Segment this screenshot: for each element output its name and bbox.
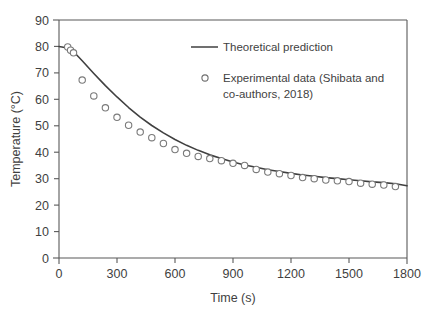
data-point-marker xyxy=(288,172,294,178)
data-point-marker xyxy=(230,160,236,166)
data-point-marker xyxy=(125,122,131,128)
chart-legend: Theoretical prediction Experimental data… xyxy=(191,41,384,100)
data-point-marker xyxy=(346,178,352,184)
x-tick-label: 900 xyxy=(223,267,244,281)
y-tick-label: 50 xyxy=(35,119,49,133)
y-tick-label: 20 xyxy=(35,199,49,213)
data-point-marker xyxy=(218,157,224,163)
data-point-marker xyxy=(160,140,166,146)
x-tick-label: 1500 xyxy=(335,267,363,281)
y-axis-tick-labels: 0 10 20 30 40 50 60 70 80 90 xyxy=(35,14,49,266)
cooling-curve-chart: 0 10 20 30 40 50 60 70 80 90 0 300 600 9… xyxy=(0,0,429,312)
data-point-marker xyxy=(137,129,143,135)
data-point-marker xyxy=(183,150,189,156)
y-tick-label: 30 xyxy=(35,172,49,186)
data-point-marker xyxy=(311,175,317,181)
data-point-marker xyxy=(334,178,340,184)
y-axis-title: Temperature (°C) xyxy=(9,91,23,187)
x-axis-title: Time (s) xyxy=(210,291,255,305)
data-point-marker xyxy=(102,105,108,111)
data-point-marker xyxy=(79,77,85,83)
x-tick-label: 600 xyxy=(165,267,186,281)
y-axis-ticks xyxy=(53,20,59,258)
data-point-marker xyxy=(91,93,97,99)
data-point-marker xyxy=(149,134,155,140)
data-point-marker xyxy=(392,183,398,189)
data-point-marker xyxy=(369,181,375,187)
legend-label-experimental-line2: co-authors, 2018) xyxy=(223,88,313,100)
y-tick-label: 40 xyxy=(35,146,49,160)
x-tick-label: 1800 xyxy=(393,267,421,281)
experimental-data-markers xyxy=(65,44,399,190)
y-tick-label: 70 xyxy=(35,66,49,80)
x-tick-label: 1200 xyxy=(277,267,305,281)
data-point-marker xyxy=(253,166,259,172)
data-point-marker xyxy=(241,162,247,168)
legend-circle-swatch xyxy=(202,75,208,81)
y-tick-label: 80 xyxy=(35,40,49,54)
x-tick-label: 300 xyxy=(107,267,128,281)
data-point-marker xyxy=(323,177,329,183)
chart-figure: 0 10 20 30 40 50 60 70 80 90 0 300 600 9… xyxy=(0,0,429,312)
data-point-marker xyxy=(195,153,201,159)
x-axis-tick-labels: 0 300 600 900 1200 1500 1800 xyxy=(56,267,421,281)
axes-frame xyxy=(59,20,407,258)
x-axis-ticks xyxy=(59,258,407,264)
y-tick-label: 0 xyxy=(42,252,49,266)
data-point-marker xyxy=(276,170,282,176)
y-tick-label: 60 xyxy=(35,93,49,107)
data-point-marker xyxy=(265,169,271,175)
data-point-marker xyxy=(299,174,305,180)
data-point-marker xyxy=(172,146,178,152)
data-point-marker xyxy=(114,114,120,120)
y-tick-label: 90 xyxy=(35,14,49,28)
x-tick-label: 0 xyxy=(56,267,63,281)
y-tick-label: 10 xyxy=(35,225,49,239)
data-point-marker xyxy=(381,182,387,188)
legend-label-theoretical: Theoretical prediction xyxy=(223,41,333,53)
data-point-marker xyxy=(207,155,213,161)
data-point-marker xyxy=(70,50,76,56)
legend-label-experimental-line1: Experimental data (Shibata and xyxy=(223,72,384,84)
data-point-marker xyxy=(357,180,363,186)
